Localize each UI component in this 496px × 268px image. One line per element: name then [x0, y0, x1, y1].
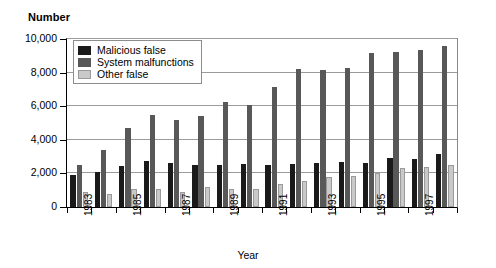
bar: [265, 165, 270, 207]
bar: [393, 52, 398, 207]
bar: [400, 168, 405, 207]
x-tick-label: 1997: [424, 194, 435, 216]
bar-group: [238, 39, 262, 207]
bar: [339, 162, 344, 207]
y-tick-label: 2,000: [31, 166, 57, 178]
legend-swatch-icon: [78, 58, 91, 67]
x-tick-mark: [165, 208, 166, 213]
x-tick-label: 1993: [327, 194, 338, 216]
bar: [418, 50, 423, 207]
bar: [107, 194, 112, 207]
bar-group: [433, 39, 457, 207]
bar: [253, 189, 258, 207]
bar: [119, 166, 124, 207]
x-tick-mark: [213, 208, 214, 213]
y-tick-label: 8,000: [31, 66, 57, 78]
x-tick-label: 1995: [376, 194, 387, 216]
bar: [296, 69, 301, 207]
x-tick-mark: [408, 208, 409, 213]
bar: [363, 163, 368, 207]
bar: [412, 159, 417, 207]
bar-group: [384, 39, 408, 207]
y-tick-label: 4,000: [31, 133, 57, 145]
x-tick-label: 1987: [181, 194, 192, 216]
bar: [150, 115, 155, 207]
x-tick-mark: [262, 208, 263, 213]
bar: [302, 181, 307, 207]
bar: [369, 53, 374, 207]
bar: [436, 154, 441, 207]
bar: [351, 176, 356, 207]
y-tick-mark: [60, 73, 66, 74]
bar-group: [213, 39, 237, 207]
x-tick-label: 1983: [83, 194, 94, 216]
x-tick-mark: [457, 208, 458, 213]
bar: [448, 165, 453, 207]
legend-label: System malfunctions: [97, 56, 194, 68]
x-tick-label: 1985: [132, 194, 143, 216]
bar-group: [360, 39, 384, 207]
bar: [241, 164, 246, 207]
x-tick-mark: [360, 208, 361, 213]
legend-label: Malicious false: [97, 44, 166, 56]
bar: [387, 158, 392, 207]
bar-group: [262, 39, 286, 207]
bar: [174, 120, 179, 207]
bar: [247, 105, 252, 207]
bar: [77, 165, 82, 207]
bar: [156, 189, 161, 207]
y-tick-mark: [60, 173, 66, 174]
x-tick-mark: [311, 208, 312, 213]
x-axis-ticks: [0, 208, 496, 216]
legend-item: Other false: [78, 68, 194, 80]
bar: [320, 70, 325, 207]
bar: [95, 172, 100, 207]
legend: Malicious falseSystem malfunctionsOther …: [73, 40, 202, 84]
legend-swatch-icon: [78, 70, 91, 79]
bar-group: [286, 39, 310, 207]
bar: [101, 150, 106, 207]
bar: [125, 128, 130, 207]
legend-item: Malicious false: [78, 44, 194, 56]
bar: [198, 116, 203, 207]
bar: [290, 164, 295, 207]
legend-swatch-icon: [78, 46, 91, 55]
legend-item: System malfunctions: [78, 56, 194, 68]
bar: [314, 163, 319, 207]
bar: [144, 161, 149, 207]
bar-chart: Number 02,0004,0006,0008,00010,000 19831…: [0, 0, 496, 268]
bar: [223, 102, 228, 207]
legend-label: Other false: [97, 68, 148, 80]
bar: [168, 163, 173, 207]
y-tick-label: 6,000: [31, 99, 57, 111]
bar-group: [335, 39, 359, 207]
y-tick-mark: [60, 39, 66, 40]
y-tick-mark: [60, 106, 66, 107]
bar-group: [311, 39, 335, 207]
bar: [192, 165, 197, 207]
bar: [345, 68, 350, 207]
y-tick-mark: [60, 140, 66, 141]
x-axis-title: Year: [0, 249, 496, 261]
bar: [442, 46, 447, 207]
bar: [217, 165, 222, 207]
x-tick-label: 1991: [278, 194, 289, 216]
bar-group: [408, 39, 432, 207]
y-tick-label: 10,000: [25, 32, 57, 44]
x-tick-mark: [116, 208, 117, 213]
x-tick-mark: [67, 208, 68, 213]
bar: [205, 187, 210, 207]
bar: [70, 175, 75, 207]
bar: [272, 87, 277, 207]
x-tick-label: 1989: [229, 194, 240, 216]
